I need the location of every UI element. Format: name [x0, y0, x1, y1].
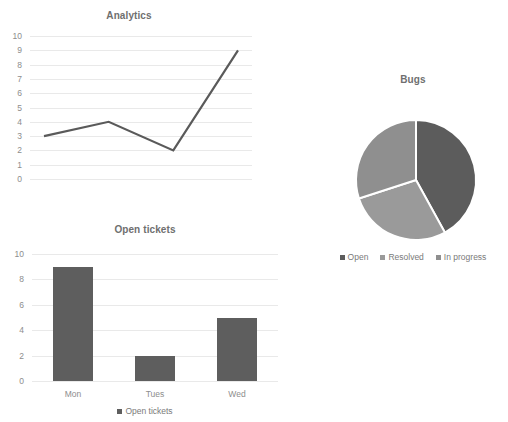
bar[interactable]: [53, 267, 93, 381]
bar-chart-legend: Open tickets: [0, 406, 290, 416]
gridline: [32, 254, 278, 255]
legend-label: Open tickets: [125, 406, 172, 416]
y-axis-tick-label: 0: [0, 377, 24, 385]
legend-item[interactable]: Resolved: [380, 252, 423, 262]
gridline: [32, 381, 278, 382]
open-tickets-bar-chart: Open tickets 0246810MonTuesWedOpen ticke…: [0, 222, 290, 418]
legend-swatch-icon: [380, 255, 385, 260]
analytics-plot-area: 012345678910: [0, 22, 258, 192]
x-axis-tick-label: Tues: [114, 389, 196, 399]
x-axis-tick-label: Mon: [32, 389, 114, 399]
legend-label: Resolved: [388, 252, 423, 262]
pie-chart-legend: OpenResolvedIn progress: [318, 252, 508, 262]
legend-item[interactable]: In progress: [436, 252, 487, 262]
bar[interactable]: [135, 356, 175, 381]
legend-label: In progress: [444, 252, 487, 262]
y-axis-tick-label: 4: [0, 326, 24, 334]
bar[interactable]: [217, 318, 257, 382]
x-axis-tick-label: Wed: [196, 389, 278, 399]
legend-item[interactable]: Open tickets: [117, 406, 172, 416]
legend-swatch-icon: [117, 409, 122, 414]
y-axis-tick-label: 8: [0, 275, 24, 283]
analytics-chart-title: Analytics: [0, 10, 258, 22]
open-tickets-plot-area: 0246810MonTuesWedOpen tickets: [0, 236, 290, 416]
open-tickets-chart-title: Open tickets: [0, 224, 290, 236]
y-axis-tick-label: 6: [0, 301, 24, 309]
bugs-pie-slices: [318, 86, 508, 246]
bugs-pie-chart: Bugs OpenResolvedIn progress: [318, 74, 508, 274]
legend-item[interactable]: Open: [340, 252, 369, 262]
analytics-line-series: [0, 22, 258, 192]
legend-swatch-icon: [436, 255, 441, 260]
bugs-chart-title: Bugs: [318, 74, 508, 86]
y-axis-tick-label: 10: [0, 250, 24, 258]
legend-swatch-icon: [340, 255, 345, 260]
analytics-line-chart: Analytics 012345678910: [0, 6, 258, 196]
y-axis-tick-label: 2: [0, 352, 24, 360]
bugs-plot-area: OpenResolvedIn progress: [318, 86, 508, 266]
legend-label: Open: [348, 252, 369, 262]
